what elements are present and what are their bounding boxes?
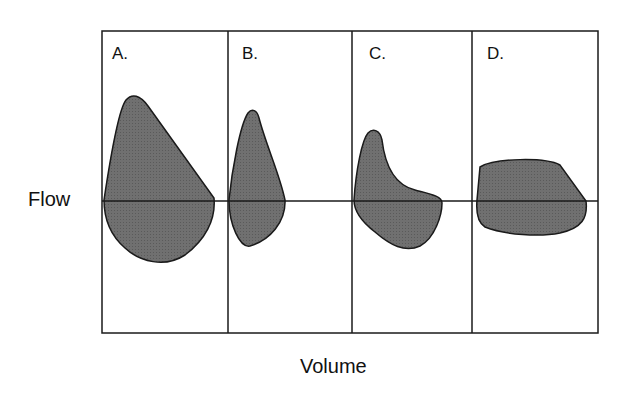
loop-d (477, 160, 587, 235)
loop-b (229, 110, 285, 246)
flow-volume-diagram (0, 0, 628, 399)
panel-label-c: C. (369, 44, 386, 64)
panel-label-b: B. (242, 44, 258, 64)
panel-label-d: D. (487, 44, 504, 64)
loop-c (354, 130, 442, 248)
panel-label-a: A. (112, 44, 128, 64)
y-axis-label: Flow (28, 188, 70, 211)
x-axis-label: Volume (300, 355, 367, 378)
loop-a (104, 96, 214, 262)
